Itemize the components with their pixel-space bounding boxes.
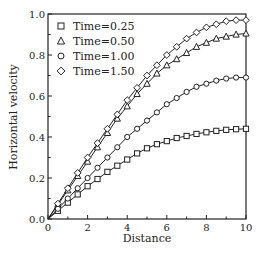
legend-item: Time=1.50 <box>57 65 134 78</box>
line-chart: 02468100.00.20.40.60.81.0 Time=0.25Time=… <box>0 0 262 258</box>
x-axis-label: Distance <box>123 232 172 245</box>
legend-label: Time=0.50 <box>73 35 135 48</box>
y-tick-label: 0.0 <box>29 214 45 225</box>
legend-label: Time=1.50 <box>73 65 135 78</box>
x-tick-label: 10 <box>240 222 253 233</box>
y-tick-label: 0.8 <box>29 50 45 61</box>
legend-label: Time=0.25 <box>73 20 135 33</box>
legend: Time=0.25Time=0.50Time=1.00Time=1.50 <box>57 20 134 78</box>
y-tick-label: 0.6 <box>29 91 45 102</box>
x-tick-label: 0 <box>45 222 51 233</box>
y-tick-label: 0.2 <box>29 173 45 184</box>
y-tick-label: 0.4 <box>29 132 45 143</box>
x-tick-label: 2 <box>84 222 90 233</box>
y-tick-label: 1.0 <box>29 9 45 20</box>
x-tick-label: 8 <box>203 222 209 233</box>
legend-item: Time=0.25 <box>58 20 135 33</box>
y-axis-label: Horizontal velocity <box>7 63 20 169</box>
legend-item: Time=1.00 <box>58 50 135 63</box>
legend-item: Time=0.50 <box>57 35 134 48</box>
legend-label: Time=1.00 <box>73 50 135 63</box>
